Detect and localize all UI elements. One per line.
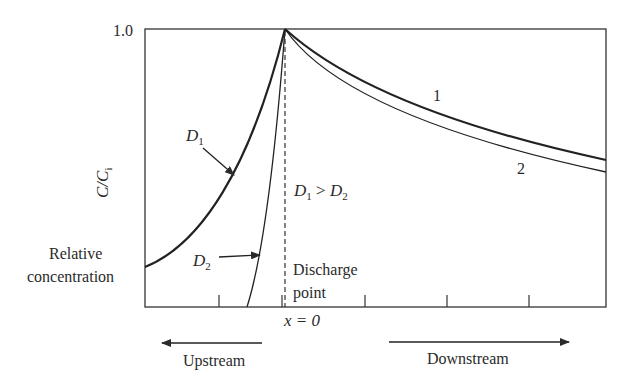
d1-gt-d2-label: D1 > D2	[293, 181, 348, 202]
plot-frame	[145, 29, 606, 307]
d1-arrow	[203, 148, 234, 175]
downstream-label: Downstream	[427, 350, 509, 367]
relative-label: Relative	[49, 245, 102, 262]
curve-1-downstream	[285, 29, 606, 160]
curve-d2-upstream	[247, 29, 285, 307]
x-axis-ticks	[219, 295, 529, 307]
svg-text:C/Ci: C/Ci	[93, 168, 114, 198]
concentration-label: concentration	[27, 268, 114, 285]
discharge-label: Discharge	[293, 261, 358, 279]
d1-label: D1	[185, 126, 204, 147]
curve-2-label: 2	[517, 160, 525, 177]
curve-2-downstream	[285, 29, 606, 172]
x-origin-label: x = 0	[283, 311, 321, 330]
curve-1-label: 1	[433, 87, 441, 104]
concentration-diagram: 1.0 C/Ci Relative concentration D1 D2 D1…	[0, 0, 624, 389]
d2-label: D2	[192, 251, 211, 272]
y-axis-label: C/Ci	[93, 168, 114, 198]
y-tick-1-0: 1.0	[113, 22, 133, 39]
upstream-label: Upstream	[183, 352, 246, 370]
point-label: point	[293, 284, 326, 302]
d2-arrow	[219, 255, 260, 257]
